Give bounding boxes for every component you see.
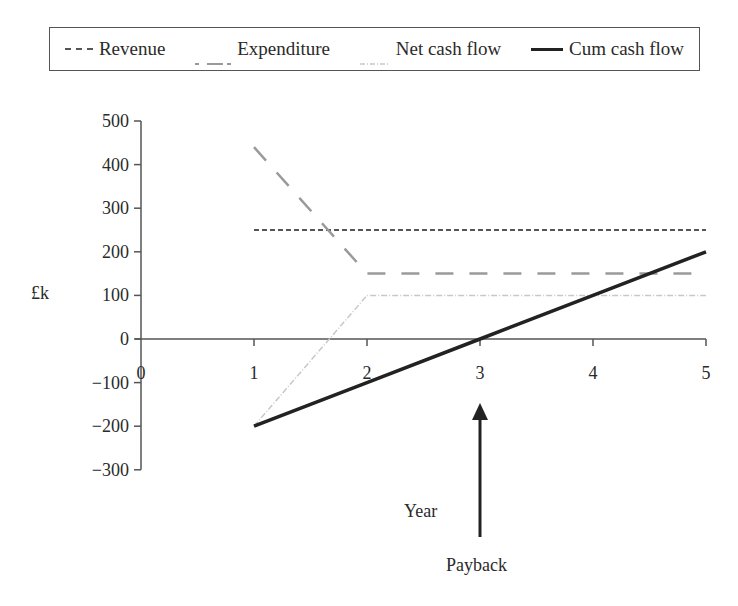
y-tick-label: −300 [92, 460, 129, 480]
x-tick-label: 3 [476, 363, 485, 383]
y-tick-label: 400 [102, 155, 129, 175]
x-tick-label: 1 [250, 363, 259, 383]
payback-arrow [472, 403, 488, 537]
y-tick-label: −100 [92, 373, 129, 393]
y-tick-label: 300 [102, 198, 129, 218]
y-tick-label: 100 [102, 285, 129, 305]
y-tick-label: 500 [102, 111, 129, 131]
y-axis-label: £k [31, 283, 49, 304]
y-tick-label: −200 [92, 416, 129, 436]
y-tick-label: 0 [120, 329, 129, 349]
y-tick-label: 200 [102, 242, 129, 262]
chart-series [254, 147, 706, 426]
x-tick-label: 0 [137, 363, 146, 383]
x-axis-label: Year [404, 501, 437, 522]
x-tick-label: 4 [589, 363, 598, 383]
line-chart: 5004003002001000−100−200−300012345 [0, 0, 738, 606]
series-expenditure [254, 147, 706, 273]
payback-label: Payback [446, 555, 507, 576]
arrow-up-icon [472, 403, 488, 420]
x-tick-label: 5 [702, 363, 711, 383]
